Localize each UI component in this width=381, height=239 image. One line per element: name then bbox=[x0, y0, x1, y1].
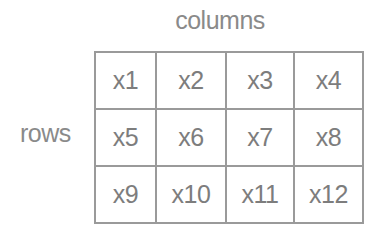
matrix-row: x1 x2 x3 x4 bbox=[95, 52, 363, 109]
matrix-row: x9 x10 x11 x12 bbox=[95, 166, 363, 223]
matrix-cell: x10 bbox=[156, 166, 226, 223]
matrix-grid: x1 x2 x3 x4 x5 x6 x7 x8 x9 x10 x11 x12 bbox=[94, 51, 364, 224]
rows-label: rows bbox=[20, 119, 71, 148]
columns-label: columns bbox=[160, 6, 280, 35]
matrix-cell: x4 bbox=[294, 52, 363, 109]
matrix-cell: x11 bbox=[226, 166, 294, 223]
matrix-cell: x9 bbox=[95, 166, 156, 223]
matrix-cell: x1 bbox=[95, 52, 156, 109]
matrix-cell: x5 bbox=[95, 109, 156, 166]
matrix-cell: x8 bbox=[294, 109, 363, 166]
matrix-cell: x6 bbox=[156, 109, 226, 166]
matrix-cell: x7 bbox=[226, 109, 294, 166]
matrix-row: x5 x6 x7 x8 bbox=[95, 109, 363, 166]
matrix-cell: x3 bbox=[226, 52, 294, 109]
matrix-cell: x2 bbox=[156, 52, 226, 109]
matrix-cell: x12 bbox=[294, 166, 363, 223]
